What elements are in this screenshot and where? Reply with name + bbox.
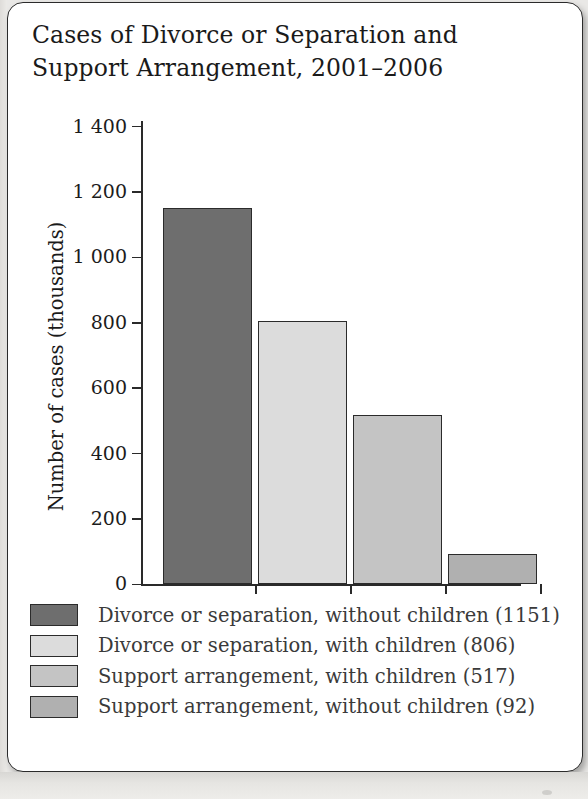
x-axis-tick-mark — [255, 584, 257, 594]
page-speck — [542, 790, 552, 795]
legend-label: Divorce or separation, without children … — [98, 604, 560, 627]
y-axis-tick-mark — [132, 257, 141, 259]
bar-1 — [163, 208, 252, 584]
legend-swatch — [30, 665, 78, 687]
bar-4 — [448, 554, 537, 584]
legend-label: Divorce or separation, with children (80… — [98, 634, 515, 657]
x-axis-tick-mark — [445, 584, 447, 594]
chart-legend: Divorce or separation, without children … — [30, 600, 570, 722]
y-axis-tick-mark — [132, 518, 141, 520]
y-axis-tick-mark — [132, 191, 141, 193]
y-axis-tick-mark — [132, 322, 141, 324]
legend-label: Support arrangement, without children (9… — [98, 695, 535, 718]
y-axis-tick-mark — [132, 584, 141, 586]
legend-swatch — [30, 604, 78, 626]
legend-item-4: Support arrangement, without children (9… — [30, 692, 570, 723]
y-axis-title: Number of cases (thousands) — [45, 167, 68, 567]
bar-3 — [353, 415, 442, 584]
page-left-gutter — [0, 0, 7, 799]
y-axis-tick-mark — [132, 126, 141, 128]
legend-item-3: Support arrangement, with children (517) — [30, 661, 570, 692]
page-bottom-strip — [0, 772, 588, 799]
legend-swatch — [30, 635, 78, 657]
x-axis-tick-mark — [540, 584, 542, 594]
legend-swatch — [30, 696, 78, 718]
legend-item-2: Divorce or separation, with children (80… — [30, 631, 570, 662]
y-axis-tick-mark — [132, 453, 141, 455]
x-axis-tick-mark — [350, 584, 352, 594]
x-axis-line — [141, 584, 521, 586]
y-axis-tick-label: 1 400 — [47, 115, 127, 137]
legend-item-1: Divorce or separation, without children … — [30, 600, 570, 631]
bar-2 — [258, 321, 347, 585]
y-axis-tick-mark — [132, 387, 141, 389]
legend-label: Support arrangement, with children (517) — [98, 665, 515, 688]
y-axis-line — [141, 121, 143, 586]
figure-card: Cases of Divorce or Separation and Suppo… — [7, 2, 583, 772]
y-axis-tick-label: 0 — [47, 572, 127, 594]
